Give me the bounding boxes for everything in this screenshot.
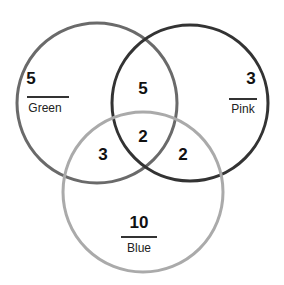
- green-pink-count: 5: [138, 80, 147, 97]
- blue-label: Blue: [127, 242, 151, 254]
- green-only-count: 5: [26, 70, 35, 87]
- pink-only-count: 3: [246, 70, 255, 87]
- pink-blue-count: 2: [178, 146, 187, 163]
- green-blue-count: 3: [98, 146, 107, 163]
- blue-only-count: 10: [130, 214, 149, 231]
- green-label: Green: [28, 102, 61, 114]
- all-three-count: 2: [138, 128, 147, 145]
- green-divider: [27, 96, 69, 98]
- pink-label: Pink: [231, 103, 254, 115]
- blue-divider: [121, 236, 157, 238]
- pink-divider: [229, 98, 257, 100]
